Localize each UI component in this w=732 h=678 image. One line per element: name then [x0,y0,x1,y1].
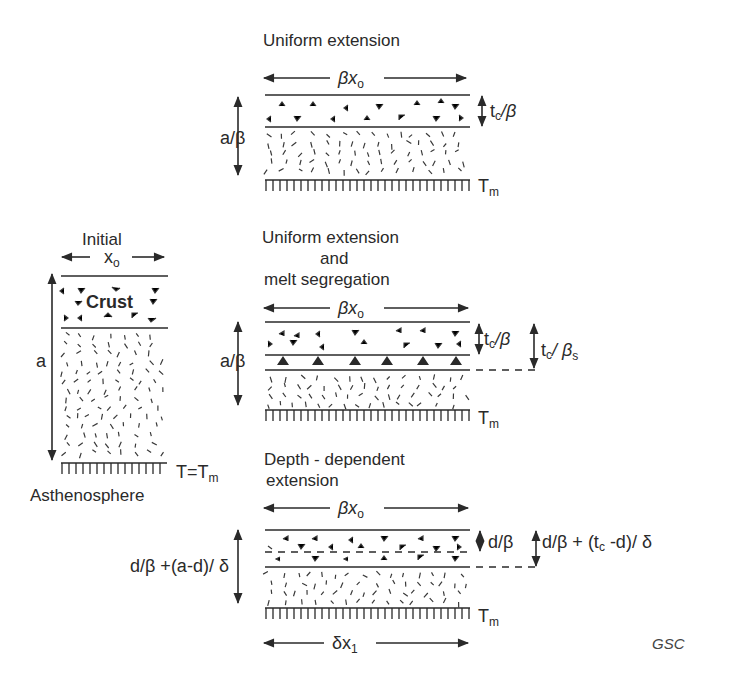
mantle-pattern [264,131,464,176]
melt-crust-label: tc/β [484,329,510,351]
mantle-pattern [263,571,466,607]
depth-bottom-width-label: δx1 [332,633,358,656]
mantle-pattern [61,332,164,458]
asthenosphere-hatch [266,410,469,421]
mantle-pattern [268,374,469,409]
depth-title-line1: Depth - dependent [264,450,405,469]
depth-crust-label: d/β + (tc -d)/ δ [542,532,652,554]
asthenosphere-label: Asthenosphere [30,486,144,505]
initial-width-label: xo [104,247,120,270]
melt-crust2-label: tc/ βs [541,340,578,363]
initial-base-label: T=Tm [176,462,219,485]
depth-base-label: Tm [478,606,499,629]
crust-pattern [268,328,461,350]
depth-width-label: βxo [337,498,364,521]
panel-uniform-extension: Uniform extension βxo a/β tc/β Tm [220,31,516,199]
depth-thickness-label: d/β +(a-d)/ δ [130,556,229,576]
uniform-title: Uniform extension [263,31,400,50]
uniform-crust-label: tc/β [490,101,516,123]
melt-title-line2: and [320,249,348,268]
melt-title-line3: melt segregation [264,270,390,289]
melt-width-label: βxo [337,298,364,321]
crust-pattern [268,536,461,561]
panel-melt-segregation: Uniform extension and melt segregation β… [220,228,578,431]
initial-title: Initial [82,230,122,249]
asthenosphere-hatch [266,608,469,619]
melt-base-label: Tm [478,408,499,431]
melt-title-line1: Uniform extension [262,228,399,247]
uniform-thickness-label: a/β [220,128,245,148]
asthenosphere-hatch [266,180,469,191]
depth-title-line2: extension [266,471,339,490]
credit-label: GSC [652,635,685,652]
melt-thickness-label: a/β [220,351,245,371]
uniform-width-label: βxo [337,68,364,91]
asthenosphere-hatch [62,463,160,474]
melt-segregation-triangles [277,356,462,365]
uniform-base-label: Tm [478,176,499,199]
crust-label: Crust [86,292,133,312]
depth-upper-label: d/β [488,532,513,552]
crust-pattern [267,99,463,122]
melt-icon [277,356,462,365]
panel-initial: Initial xo Crust a T=Tm Asthenosphere [30,230,219,505]
initial-thickness-label: a [36,351,47,371]
lithosphere-extension-diagram: Initial xo Crust a T=Tm Asthenosphere Un… [0,0,732,678]
